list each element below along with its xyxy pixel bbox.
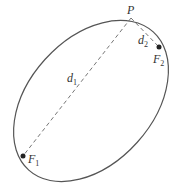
segment-d1	[23, 18, 131, 156]
focus-f1-label: F1	[27, 152, 39, 168]
focus-f1-point	[21, 154, 26, 159]
segment-d1-label: d1	[67, 71, 77, 87]
focus-f2-point	[157, 45, 162, 50]
point-p-label: P	[126, 3, 135, 17]
ellipse-diagram: P F2 F1 d1 d2	[0, 0, 187, 186]
segment-d2-label: d2	[138, 33, 148, 49]
focus-f2-label: F2	[152, 52, 164, 68]
